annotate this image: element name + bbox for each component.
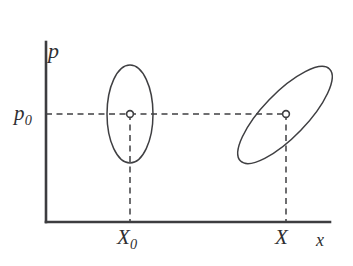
x0-tick-label-base: X	[117, 225, 130, 249]
x-center-marker-icon	[283, 111, 290, 118]
reference-lines-group	[46, 114, 286, 222]
y-axis-label: p	[48, 40, 59, 62]
phase-space-figure: p p0 X0 X x	[0, 0, 353, 266]
x0-tick-label-subscript: 0	[130, 236, 137, 252]
x0-center-marker-icon	[127, 111, 134, 118]
ellipses-group	[107, 54, 345, 177]
x0-tick-label: X0	[117, 227, 137, 248]
p0-tick-label-subscript: 0	[25, 112, 32, 128]
p0-tick-label-base: p	[14, 101, 25, 125]
axes-group	[46, 42, 330, 222]
x-axis-label: x	[316, 231, 324, 249]
x-tick-label: X	[275, 227, 288, 248]
p0-tick-label: p0	[14, 103, 32, 124]
